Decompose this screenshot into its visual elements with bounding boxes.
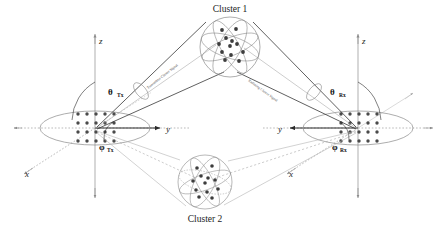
phi-tx-subscript: Tx [107,147,114,153]
cluster1-scatterer [234,27,238,31]
tx-antenna-element [94,112,97,115]
cluster1-scatterer [224,36,228,40]
tx-antenna-element [103,112,106,115]
theta-rx-subscript: Rx [339,92,346,98]
rx-x-axis-label: x [288,169,293,179]
cluster1-tx-ray-center [97,45,216,128]
cluster-1-title: Cluster 1 [213,4,248,14]
cluster2-scatterer [210,164,214,168]
theta-tx-label: θ [108,87,113,97]
tx-antenna-element [76,121,79,124]
theta-rx-label: θ [330,87,335,97]
rx-antenna-element [339,130,342,133]
cluster2-rx-ray-center [215,132,356,178]
rx-x-axis-back-arrow [405,93,413,99]
tx-antenna-element [85,121,88,124]
tx-x-axis [25,128,95,173]
cluster-2-title: Cluster 2 [188,214,223,224]
phi-rx-label: φ [332,142,338,152]
cluster2-scatterer [203,181,207,185]
rx-antenna-element [366,112,369,115]
tx-x-axis-label: x [24,169,29,179]
rx-antenna-element [375,139,378,142]
diagram-canvas: Cluster 1 Cluster 2 Transmitter Cluster … [0,0,445,229]
cluster1-tx-ray-lower [97,72,224,129]
cluster1-scatterer [217,42,221,46]
cluster2-tx-ray-upper [97,131,180,160]
cluster1-scatterer [223,58,227,62]
cluster2-scatterer [216,187,220,191]
cluster2-scatterer [206,176,210,180]
tx-y-axis-label: y [165,124,170,134]
tx-antenna-element [85,139,88,142]
rx-y-axis-label: y [277,124,282,134]
cluster2-tx-ray-lower [97,133,186,206]
rx-antenna-element [366,139,369,142]
cluster2-scatterer [191,179,195,183]
cluster2-scatterer [213,178,217,182]
cluster2-scatterer [197,195,201,199]
rx-antenna-element [366,130,369,133]
tx-z-axis-label: z [98,36,103,46]
cluster-1-sphere [198,15,262,78]
rx-antenna-element [375,112,378,115]
cluster1-rx-ray-upper [253,22,356,127]
tx-beam-waist-ellipse [131,80,152,102]
cluster1-scatterer [237,59,241,63]
phi-rx-subscript: Rx [340,147,347,153]
phi-tx-label: φ [99,142,105,152]
rx-antenna-element [357,112,360,115]
tx-antenna-element [94,139,97,142]
cluster1-scatterer [220,28,224,32]
cluster2-scatterer [195,166,199,170]
cluster2-scatterer [194,188,198,192]
cluster1-scatterer [228,44,232,48]
rx-antenna-element [357,130,360,133]
cluster1-scatterer [235,42,239,46]
cluster1-scatterer [230,39,234,43]
tx-antenna-element [76,139,79,142]
rx-antenna-element [366,121,369,124]
cluster2-scatterer [210,196,214,200]
rx-antenna-element [375,130,378,133]
theta-tx-arc [72,82,95,120]
cluster1-scatterer [241,50,245,54]
rx-antenna-element [375,121,378,124]
tx-antenna-element [85,130,88,133]
tx-antenna-element [85,112,88,115]
cluster2-tx-ray-center [97,132,196,178]
cluster1-scatterer [220,50,224,54]
cluster2-scatterer [205,190,209,194]
tx-antenna-element [76,112,79,115]
tx-antenna-element [76,130,79,133]
receive-signal-label: Radiating Cluster Signal [247,79,278,103]
tx-antenna-element [112,130,115,133]
transmit-signal-label: Transmitter Cluster Signal [146,63,178,90]
theta-tx-subscript: Tx [117,92,124,98]
cluster1-rx-rays [237,22,356,129]
cluster-2-sphere [176,153,233,210]
tx-antenna-element [94,121,97,124]
rx-antenna-element [348,112,351,115]
cluster1-rx-ray-lower [237,72,356,129]
rx-antenna-element [357,139,360,142]
rx-z-axis-label: z [361,36,366,46]
tx-axes [14,34,190,198]
cluster1-tx-ray-upper [97,22,206,127]
rx-antenna-element [357,121,360,124]
cluster1-scatterer [229,53,233,57]
cluster2-scatterer [199,174,203,178]
